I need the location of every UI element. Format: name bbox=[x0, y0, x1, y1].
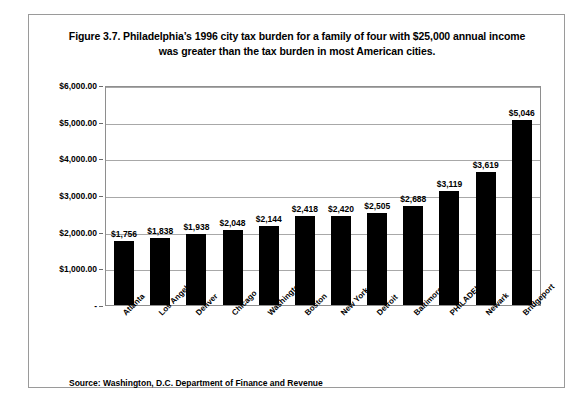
y-axis-tick-mark bbox=[99, 233, 103, 234]
bar bbox=[223, 230, 243, 305]
bar bbox=[259, 226, 279, 305]
x-axis-tick: Newark bbox=[476, 307, 496, 369]
bar bbox=[114, 241, 134, 305]
y-axis-tick-mark bbox=[99, 86, 103, 87]
y-axis-tick-mark bbox=[99, 269, 103, 270]
x-axis-tick: Baltimore bbox=[404, 307, 424, 369]
x-axis-tick: PHILADELPHIA bbox=[440, 307, 460, 369]
y-axis-tick-label: $4,000.00 bbox=[59, 154, 97, 164]
bar-series bbox=[106, 87, 540, 305]
y-axis-tick-label: $6,000.00 bbox=[59, 81, 97, 91]
y-axis-tick-label: $5,000.00 bbox=[59, 118, 97, 128]
x-axis-tick: Boston bbox=[295, 307, 315, 369]
bar bbox=[512, 120, 532, 305]
bar bbox=[403, 206, 423, 305]
plot-area: $1,756$1,838$1,938$2,048$2,144$2,418$2,4… bbox=[105, 86, 541, 306]
y-axis-tick-label: $2,000.00 bbox=[59, 228, 97, 238]
y-axis-tick-label: $1,000.00 bbox=[59, 264, 97, 274]
y-axis-tick-label: $3,000.00 bbox=[59, 191, 97, 201]
y-axis: $6,000.00$5,000.00$4,000.00$3,000.00$2,0… bbox=[29, 86, 103, 306]
figure-title-line-1: Figure 3.7. Philadelphia’s 1996 city tax… bbox=[69, 30, 450, 42]
y-axis-tick-mark bbox=[99, 196, 103, 197]
x-axis-tick: Los Angeles bbox=[149, 307, 169, 369]
y-axis-tick-label: - bbox=[94, 301, 97, 311]
x-axis-tick: Washington DC bbox=[258, 307, 278, 369]
x-axis-tick: Atlanta bbox=[113, 307, 133, 369]
x-axis-tick: Detroit bbox=[367, 307, 387, 369]
x-axis-tick: Bridgeport bbox=[513, 307, 533, 369]
y-axis-tick-mark bbox=[99, 306, 103, 307]
y-axis-tick-mark bbox=[99, 159, 103, 160]
x-axis-tick: New York bbox=[331, 307, 351, 369]
bar bbox=[439, 191, 459, 305]
figure-frame: Figure 3.7. Philadelphia’s 1996 city tax… bbox=[28, 14, 565, 388]
bar bbox=[150, 238, 170, 305]
bar bbox=[186, 234, 206, 305]
source-note: Source: Washington, D.C. Department of F… bbox=[69, 378, 323, 388]
x-axis-tick: Denver bbox=[186, 307, 206, 369]
x-axis-tick: Chicago bbox=[222, 307, 242, 369]
bar bbox=[331, 216, 351, 305]
y-axis-tick-mark bbox=[99, 123, 103, 124]
x-axis: AtlantaLos AngelesDenverChicagoWashingto… bbox=[105, 307, 541, 369]
figure-title: Figure 3.7. Philadelphia’s 1996 city tax… bbox=[67, 29, 527, 59]
